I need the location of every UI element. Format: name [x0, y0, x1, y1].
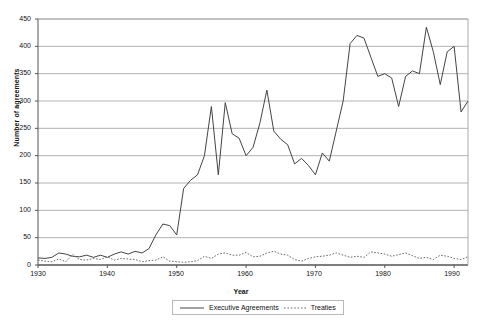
plot-area [0, 0, 482, 326]
chart-figure: Number of agreements Year 450 400 350 30… [0, 0, 482, 326]
legend-label-treaties: Treaties [311, 304, 336, 311]
chart-legend: Executive Agreements Treaties [172, 300, 344, 315]
legend-label-executive-agreements: Executive Agreements [209, 304, 279, 311]
legend-swatch-executive-agreements [180, 305, 204, 311]
legend-swatch-treaties [284, 305, 306, 311]
series-line-treaties [38, 251, 468, 262]
grid-lines [38, 19, 468, 265]
axis-lines [38, 19, 468, 265]
tick-marks [35, 19, 454, 268]
series-line-executive-agreements [38, 27, 468, 258]
